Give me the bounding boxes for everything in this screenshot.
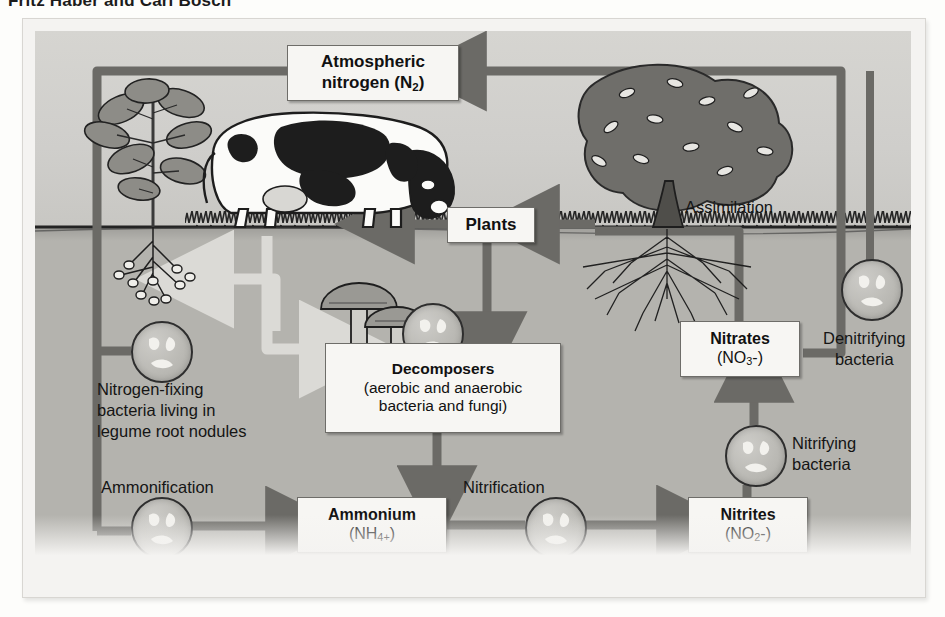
atmospheric-line2-end: ) [419,73,425,92]
label-assimilation: Assimilation [685,197,773,218]
figure-frame: Atmospheric nitrogen (N2) Plants Decompo… [22,18,926,598]
node-box-decomposers[interactable]: Decomposers (aerobic and anaerobic bacte… [325,343,561,433]
bacteria-icon-denitrifying [841,259,903,321]
bacteria-icon-nitrifying-right [725,425,787,487]
label-denitrifying-bacteria: Denitrifying bacteria [823,328,906,370]
atmospheric-line1: Atmospheric [321,52,425,73]
plants-label: Plants [465,215,516,236]
decomposers-line2: (aerobic and anaerobic [364,379,523,398]
nitrates-line2: (NO [717,349,746,366]
top-caption: Fritz Haber and Carl Bosch [8,0,231,11]
legume-plant-illustration [82,77,215,305]
label-nitrogen-fixing-nodule-bacteria: Nitrogen-fixing bacteria living in legum… [97,379,247,441]
figure-canvas: Atmospheric nitrogen (N2) Plants Decompo… [35,31,911,571]
label-nitrification: Nitrification [463,477,545,498]
decomposers-line3: bacteria and fungi) [379,397,507,416]
label-ammonification: Ammonification [101,477,214,498]
cow-illustration [204,113,454,227]
nitrates-line2-end: -) [752,349,763,366]
node-box-plants[interactable]: Plants [447,207,535,243]
node-box-nitrates[interactable]: Nitrates (NO3-) [680,321,800,377]
bacteria-icon-nitrogen-fixing-nodule [131,321,193,383]
nitrogen-cycle-figure: Fritz Haber and Carl Bosch [0,0,945,617]
node-box-atmospheric-nitrogen[interactable]: Atmospheric nitrogen (N2) [287,45,459,101]
atmospheric-line2: nitrogen (N [322,73,413,92]
label-nitrifying-bacteria-right: Nitrifying bacteria [792,433,856,475]
decomposers-line1: Decomposers [392,360,495,379]
nitrates-line1: Nitrates [710,329,770,349]
bottom-fade [35,515,911,571]
